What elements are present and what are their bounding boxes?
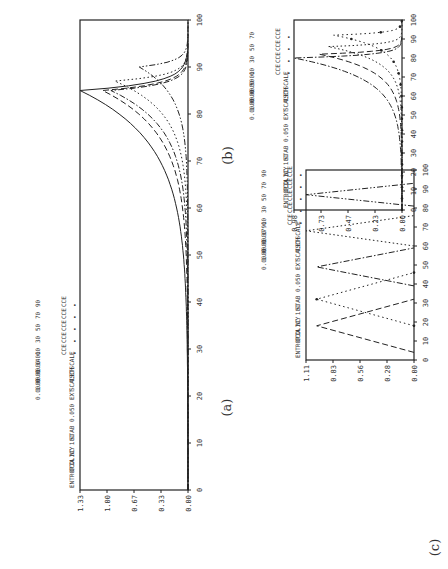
legend-label: CCE bbox=[60, 344, 67, 355]
legend-value: 10 bbox=[260, 217, 267, 225]
x-tick-label: 80 bbox=[196, 110, 204, 118]
x-tick-label: 90 bbox=[410, 35, 418, 43]
legend-marker: • bbox=[285, 47, 292, 51]
legend-value: 70 bbox=[248, 31, 255, 39]
legend-marker: • bbox=[285, 35, 292, 39]
legend-marker: • bbox=[297, 173, 304, 177]
x-tick-label: 50 bbox=[196, 251, 204, 259]
legend-label: CCE bbox=[274, 28, 281, 39]
x-tick-label: 100 bbox=[422, 164, 430, 177]
x-tick-label: 90 bbox=[196, 63, 204, 71]
legend-value: 50 bbox=[260, 193, 267, 201]
x-tick-label: 50 bbox=[422, 261, 430, 269]
y-tick-label: 1.11 bbox=[303, 365, 311, 382]
series-line-cce-90 bbox=[306, 183, 414, 206]
legend-label: CCE bbox=[274, 40, 281, 51]
legend-label: CCE bbox=[286, 178, 293, 189]
y-tick-label: 0.83 bbox=[330, 365, 338, 382]
series-point bbox=[379, 31, 382, 34]
legend-a: ENTROPIACCOLICYNC 101STAB 0.0500.0000EXT… bbox=[34, 296, 78, 488]
legend-label: CCE bbox=[286, 202, 293, 213]
legend-marker: • bbox=[71, 351, 78, 355]
series-point bbox=[401, 20, 404, 23]
legend-header-text: STAB 0.050 bbox=[294, 273, 301, 310]
legend-value: 10 bbox=[248, 67, 255, 75]
series-point bbox=[401, 129, 404, 132]
series-point bbox=[400, 95, 403, 98]
x-tick-label: 70 bbox=[410, 73, 418, 81]
series-point bbox=[401, 140, 404, 143]
legend-label: CCE bbox=[60, 332, 67, 343]
legend-marker: • bbox=[297, 209, 304, 213]
legend-label: CCE bbox=[60, 320, 67, 331]
series-point bbox=[350, 38, 353, 41]
y-tick-label: 0.28 bbox=[384, 365, 392, 382]
legend-marker: • bbox=[297, 197, 304, 201]
x-tick-label: 60 bbox=[410, 92, 418, 100]
legend-label: CCE bbox=[274, 64, 281, 75]
series-line-cce-70 bbox=[306, 216, 414, 246]
legend-value: 90 bbox=[260, 169, 267, 177]
x-tick-label: 0 bbox=[196, 488, 204, 492]
series-point bbox=[392, 61, 395, 64]
legend-label: CCE bbox=[60, 308, 67, 319]
legend-value: 30 bbox=[34, 335, 41, 343]
x-tick-label: 10 bbox=[422, 337, 430, 345]
x-tick-label: 20 bbox=[196, 392, 204, 400]
legend-value: 70 bbox=[34, 311, 41, 319]
chart-svg-a: 01020304050607080901000.000.330.671.001.… bbox=[10, 0, 210, 530]
y-tick-label: 0.67 bbox=[131, 495, 139, 512]
series-line-cce-70 bbox=[115, 20, 188, 490]
series-line-cce-10 bbox=[80, 53, 188, 490]
x-tick-label: 80 bbox=[410, 54, 418, 62]
chart-panel-c: 01020304050607080901000.000.280.560.831.… bbox=[236, 150, 436, 400]
legend-marker: • bbox=[71, 303, 78, 307]
series-point bbox=[401, 118, 404, 121]
x-tick-label: 60 bbox=[422, 242, 430, 250]
legend-value: 50 bbox=[248, 43, 255, 51]
caption-c: (c) bbox=[427, 539, 442, 556]
series-point bbox=[380, 49, 383, 52]
series-point bbox=[315, 298, 318, 301]
series-line-cce-30 bbox=[103, 44, 188, 491]
x-tick-label: 100 bbox=[410, 14, 418, 27]
x-tick-label: 70 bbox=[196, 157, 204, 165]
x-tick-label: 10 bbox=[196, 439, 204, 447]
x-tick-label: 100 bbox=[196, 14, 204, 27]
series-point bbox=[399, 83, 402, 86]
x-tick-label: 50 bbox=[410, 111, 418, 119]
legend-label: CCE bbox=[286, 166, 293, 177]
legend-marker: • bbox=[297, 221, 304, 225]
y-tick-label: 1.33 bbox=[77, 495, 85, 512]
x-tick-label: 40 bbox=[196, 298, 204, 306]
legend-value: 70 bbox=[260, 181, 267, 189]
legend-label: CCE bbox=[274, 52, 281, 63]
series-line-cce-50 bbox=[317, 248, 414, 286]
legend-c: ENTROPIACCOLICYNC 101STAB 0.0500.0000EXT… bbox=[260, 166, 304, 358]
legend-header-text: STAB 0.050 bbox=[68, 403, 75, 440]
x-tick-label: 80 bbox=[422, 204, 430, 212]
legend-label: CCE bbox=[60, 296, 67, 307]
x-tick-label: 20 bbox=[422, 318, 430, 326]
series-point bbox=[413, 271, 416, 274]
legend-value: 50 bbox=[34, 323, 41, 331]
y-tick-label: 1.00 bbox=[104, 495, 112, 512]
legend-marker: • bbox=[71, 339, 78, 343]
series-point bbox=[399, 25, 402, 28]
legend-marker: • bbox=[297, 185, 304, 189]
x-tick-label: 30 bbox=[422, 299, 430, 307]
series-line-cce-50 bbox=[111, 34, 188, 490]
legend-label: CCE bbox=[286, 190, 293, 201]
caption-b: (b) bbox=[220, 146, 235, 164]
legend-marker: • bbox=[71, 327, 78, 331]
y-tick-label: 0.00 bbox=[411, 365, 419, 382]
legend-marker: • bbox=[285, 71, 292, 75]
series-line-cce-30 bbox=[317, 273, 414, 326]
chart-panel-a: 01020304050607080901000.000.330.671.001.… bbox=[10, 0, 210, 530]
legend-label: CCE bbox=[286, 214, 293, 225]
x-tick-label: 30 bbox=[196, 345, 204, 353]
x-tick-label: 0 bbox=[422, 358, 430, 362]
series-line-cce-10 bbox=[317, 299, 414, 352]
plot-frame-c bbox=[306, 170, 414, 360]
x-tick-label: 40 bbox=[410, 130, 418, 138]
